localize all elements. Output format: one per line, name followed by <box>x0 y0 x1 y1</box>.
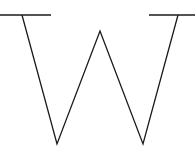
diagram-canvas <box>0 0 195 152</box>
w-letter-figure <box>0 0 195 152</box>
w-stroke-line <box>22 15 178 144</box>
